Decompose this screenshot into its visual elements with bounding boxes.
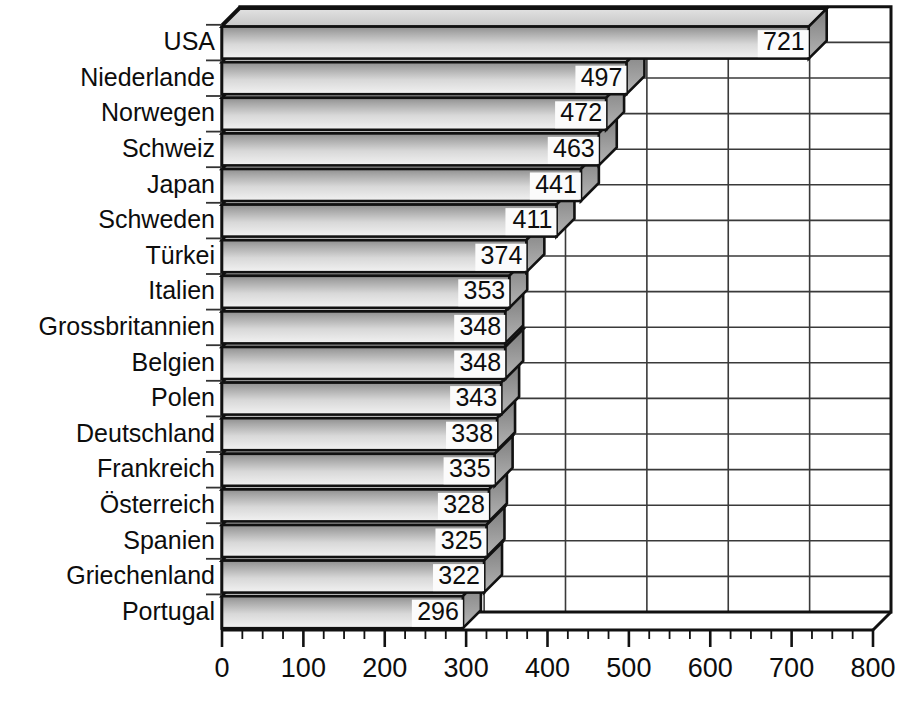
x-tick-label-300: 300 [444, 653, 489, 683]
value-label: 335 [449, 454, 491, 482]
value-label-group: 472 [555, 98, 606, 128]
category-label-grossbritannien: Grossbritannien [39, 312, 215, 340]
category-label-griechenland: Griechenland [66, 561, 215, 589]
category-label-niederlande: Niederlande [80, 63, 215, 91]
bar-front-face [222, 27, 809, 59]
x-tick-label-0: 0 [214, 653, 229, 683]
value-label-group: 353 [458, 276, 509, 306]
bar-chart-figure: USANiederlandeNorwegenSchweizJapanSchwed… [0, 0, 921, 719]
value-label-group: 343 [450, 383, 501, 413]
x-tick-label-800: 800 [850, 653, 895, 683]
category-label-polen: Polen [151, 383, 215, 411]
value-label: 721 [763, 27, 805, 55]
value-label-group: 348 [454, 312, 505, 342]
value-label: 463 [553, 134, 595, 162]
x-tick-label-400: 400 [525, 653, 570, 683]
value-label-group: 374 [475, 241, 526, 271]
value-label-group: 441 [530, 170, 581, 200]
category-label-japan: Japan [147, 170, 215, 198]
value-label-group: 338 [446, 419, 497, 449]
value-label-group: 721 [758, 27, 809, 57]
x-tick-labels: 0100200300400500600700800 [214, 653, 895, 683]
category-label-frankreich: Frankreich [97, 454, 215, 482]
value-label: 328 [443, 490, 485, 518]
bar-front-face [222, 62, 626, 94]
value-label-group: 328 [438, 490, 489, 520]
value-label: 472 [560, 98, 602, 126]
category-label-italien: Italien [148, 276, 215, 304]
category-label-schweiz: Schweiz [122, 134, 215, 162]
category-label-schweden: Schweden [98, 205, 215, 233]
category-label-spanien: Spanien [123, 526, 215, 554]
x-tick-label-100: 100 [281, 653, 326, 683]
value-label: 374 [481, 241, 523, 269]
value-label-group: 335 [444, 454, 495, 484]
x-tick-label-700: 700 [769, 653, 814, 683]
value-label: 325 [441, 526, 483, 554]
value-label: 348 [459, 348, 501, 376]
value-label: 338 [451, 419, 493, 447]
value-label: 497 [581, 63, 623, 91]
value-label: 296 [417, 597, 459, 625]
value-label: 322 [438, 561, 480, 589]
value-label-group: 463 [548, 134, 599, 164]
category-label-portugal: Portugal [122, 597, 215, 625]
value-label-group: 296 [412, 597, 463, 627]
value-label-group: 411 [505, 205, 556, 235]
chart-canvas: USANiederlandeNorwegenSchweizJapanSchwed… [0, 0, 921, 719]
category-label-t-rkei: Türkei [146, 241, 215, 269]
value-label: 348 [459, 312, 501, 340]
bar-front-face [222, 98, 606, 130]
value-label: 343 [455, 383, 497, 411]
bar-front-face [222, 133, 599, 165]
x-tick-label-600: 600 [688, 653, 733, 683]
category-label--sterreich: Österreich [100, 490, 215, 518]
value-label: 411 [513, 205, 553, 233]
value-label-group: 348 [454, 348, 505, 378]
x-tick-label-500: 500 [606, 653, 651, 683]
value-label-group: 325 [435, 526, 486, 556]
value-label: 353 [464, 276, 506, 304]
x-tick-label-200: 200 [362, 653, 407, 683]
bar-top-face [222, 9, 827, 27]
value-label-group: 497 [575, 63, 626, 93]
category-label-usa: USA [164, 27, 216, 55]
category-label-norwegen: Norwegen [101, 98, 215, 126]
category-label-deutschland: Deutschland [76, 419, 215, 447]
category-label-belgien: Belgien [132, 348, 215, 376]
bar-usa [222, 9, 827, 59]
value-label: 441 [535, 170, 577, 198]
value-label-group: 322 [433, 561, 484, 591]
bar-front-face [222, 169, 581, 201]
